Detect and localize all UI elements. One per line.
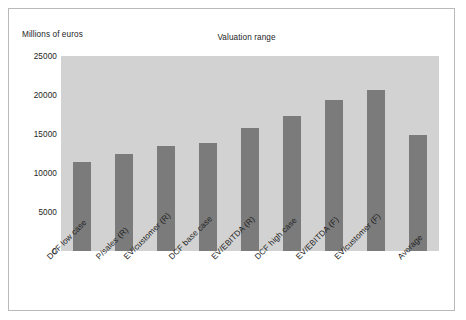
chart-figure: Millions of euros Valuation range 250002… xyxy=(8,8,455,311)
chart-title: Valuation range xyxy=(9,33,456,42)
y-axis-tick-label: 10000 xyxy=(13,169,57,178)
y-axis-tick-label: 5000 xyxy=(13,208,57,217)
y-axis-tick-label: 20000 xyxy=(13,91,57,100)
y-axis-tick-label: 25000 xyxy=(13,52,57,61)
chart-title-text: Valuation range xyxy=(217,33,275,42)
y-axis-tick-labels: 2500020000150001000050000 xyxy=(9,56,57,251)
bar xyxy=(157,146,175,251)
bar xyxy=(73,162,91,251)
x-axis-tick-labels: DCF low caseP/sales (R)EV/customer (R)DC… xyxy=(61,251,439,320)
y-axis-tick-label: 15000 xyxy=(13,130,57,139)
bar xyxy=(199,143,217,251)
